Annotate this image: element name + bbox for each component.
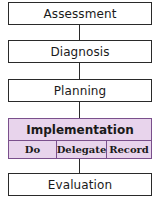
step-planning: Planning <box>8 79 152 102</box>
step-assessment: Assessment <box>8 2 152 25</box>
connector-line <box>79 63 80 79</box>
step-label: Assessment <box>44 7 117 21</box>
connector-line <box>79 25 80 40</box>
substep-record: Record <box>107 141 151 158</box>
step-evaluation: Evaluation <box>8 173 152 196</box>
connector-line <box>79 102 80 118</box>
step-label: Evaluation <box>48 178 112 192</box>
step-label: Planning <box>54 84 107 98</box>
step-label: Diagnosis <box>50 45 109 59</box>
substep-delegate: Delegate <box>57 141 107 158</box>
substep-do: Do <box>9 141 57 158</box>
step-implementation: Implementation Do Delegate Record <box>8 118 152 159</box>
connector-line <box>79 159 80 173</box>
implementation-substeps: Do Delegate Record <box>9 141 151 158</box>
implementation-header: Implementation <box>9 119 151 141</box>
step-diagnosis: Diagnosis <box>8 40 152 63</box>
